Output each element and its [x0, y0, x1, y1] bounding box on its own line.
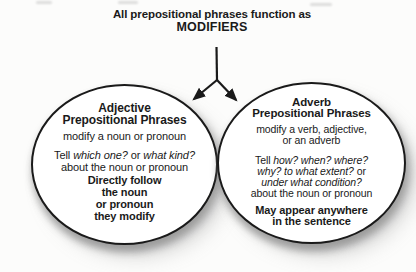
questions-conjunction: or	[128, 149, 144, 161]
adjective-placement-line4: they modify	[94, 210, 155, 222]
diagram-canvas: All prepositional phrases function as MO…	[0, 0, 416, 272]
adjective-placement-line3: or pronoun	[96, 198, 154, 210]
adjective-questions-line: Tell which one? or what kind?	[54, 149, 195, 161]
adjective-about-line: about the noun or pronoun	[61, 161, 188, 173]
adverb-about-line: about the noun or pronoun	[251, 188, 372, 199]
question-what-kind: what kind?	[143, 149, 195, 161]
adjective-placement-line1: Directly follow	[88, 174, 162, 186]
adverb-heading-line2: Prepositional Phrases	[252, 108, 371, 119]
adverb-function-line2: or an adverb	[283, 135, 341, 146]
adjective-function-line: modify a noun or pronoun	[63, 130, 186, 142]
adverb-placement-line2: in the sentence	[272, 216, 351, 227]
adjective-phrases-content: Adjective Prepositional Phrases modify a…	[31, 84, 218, 245]
questions-prefix: Tell	[54, 149, 73, 161]
adverb-phrases-content: Adverb Prepositional Phrases modify a ve…	[217, 82, 406, 244]
adjective-heading-line2: Prepositional Phrases	[63, 115, 187, 127]
adjective-placement-line2: the noun	[102, 186, 148, 198]
question-which-one: which one?	[73, 149, 128, 161]
